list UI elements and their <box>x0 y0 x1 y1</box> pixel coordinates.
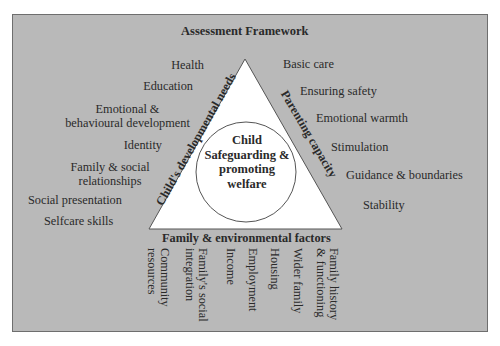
parenting-ensuring-safety: Ensuring safety <box>300 84 377 98</box>
side-label-family: Family & environmental factors <box>162 231 331 246</box>
parenting-stimulation: Stimulation <box>331 140 388 154</box>
need-health: Health <box>171 58 204 72</box>
factor-family-history: Family history & functioning <box>314 248 340 320</box>
factor-wider-family: Wider family <box>291 248 304 313</box>
factor-income: Income <box>224 248 237 285</box>
center-line-4: welfare <box>201 177 293 192</box>
need-identity: Identity <box>124 138 162 152</box>
factor-community-resources: Community resources <box>145 248 171 307</box>
factor-social-integration-line-1: Family's social <box>196 248 210 322</box>
center-line-1: Child <box>201 133 293 148</box>
diagram-title: Assessment Framework <box>181 24 308 39</box>
factor-social-integration: Family's social integration <box>183 248 209 322</box>
factor-housing: Housing <box>268 248 281 290</box>
need-family-social: Family & social relationships <box>60 160 160 188</box>
need-family-social-line-1: Family & social <box>60 160 160 174</box>
factor-employment: Employment <box>246 248 259 312</box>
parenting-basic-care: Basic care <box>283 57 334 71</box>
center-line-3: promoting <box>201 162 293 177</box>
factor-social-integration-line-2: integration <box>183 248 197 301</box>
factor-community-line-1: Community <box>158 248 172 307</box>
need-social-presentation: Social presentation <box>28 193 122 207</box>
parenting-stability: Stability <box>363 198 405 212</box>
need-selfcare: Selfcare skills <box>44 214 113 228</box>
factor-family-history-line-2: & functioning <box>314 248 328 317</box>
need-emotional-line-2: behavioural development <box>40 116 215 130</box>
need-education: Education <box>143 79 193 93</box>
center-label: Child Safeguarding & promoting welfare <box>201 133 293 191</box>
need-emotional: Emotional & behavioural development <box>40 102 215 130</box>
parenting-guidance: Guidance & boundaries <box>346 168 463 182</box>
factor-family-history-line-1: Family history <box>327 248 341 320</box>
factor-community-line-2: resources <box>145 248 159 294</box>
center-line-2: Safeguarding & <box>201 148 293 163</box>
need-family-social-line-2: relationships <box>60 174 160 188</box>
parenting-emotional-warmth: Emotional warmth <box>316 111 408 125</box>
need-emotional-line-1: Emotional & <box>40 102 215 116</box>
